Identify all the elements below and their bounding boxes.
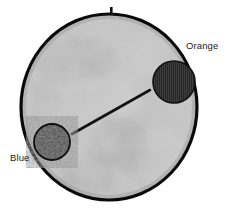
dish-top-notch-icon xyxy=(110,7,113,15)
petri-dish-figure xyxy=(0,0,228,218)
label-blue: Blue xyxy=(10,152,29,163)
colony-marker-orange xyxy=(153,61,195,103)
colony-marker-blue xyxy=(34,124,70,160)
figure-container: Orange Blue xyxy=(0,0,228,218)
label-orange: Orange xyxy=(186,40,218,51)
